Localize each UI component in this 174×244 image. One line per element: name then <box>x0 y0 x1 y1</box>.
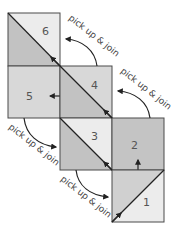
square-5: 5 <box>8 66 60 118</box>
square-6-label: 6 <box>42 25 49 38</box>
square-4-label: 4 <box>91 79 98 92</box>
square-1-label: 1 <box>143 196 150 209</box>
curved-arrow-icon <box>118 91 150 118</box>
square-5-label: 5 <box>26 90 33 103</box>
instruction-label: pick up & join <box>7 122 62 168</box>
square-2: 2 <box>112 118 164 170</box>
join-diagram: 6 5 4 3 2 1 <box>0 0 174 244</box>
instruction-label: pick up & join <box>67 13 122 59</box>
square-2-label: 2 <box>131 139 138 152</box>
square-3-label: 3 <box>91 130 98 143</box>
instruction-label: pick up & join <box>119 66 174 112</box>
curved-arrow-icon <box>66 39 97 66</box>
